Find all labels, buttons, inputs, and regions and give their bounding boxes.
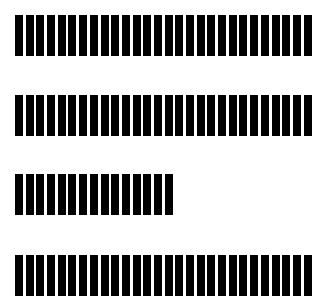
- stripe-bar: [186, 255, 194, 296]
- stripe-bar: [293, 255, 301, 296]
- stripe-bar: [58, 255, 66, 296]
- stripe-bar: [272, 255, 280, 296]
- stripe-bar: [15, 174, 23, 215]
- stripe-bar: [36, 174, 44, 215]
- stripe-bar: [304, 95, 312, 136]
- stripe-bar: [90, 95, 98, 136]
- stripe-bar: [154, 15, 162, 56]
- stripe-bar: [15, 255, 23, 296]
- stripe-bar: [36, 15, 44, 56]
- stripe-bar: [133, 174, 141, 215]
- stripe-bar: [36, 95, 44, 136]
- stripe-bar: [68, 15, 76, 56]
- stripe-bar: [175, 95, 183, 136]
- stripe-bar: [68, 95, 76, 136]
- stripe-bar: [239, 95, 247, 136]
- stripe-bar: [293, 95, 301, 136]
- stripe-row-4: [15, 255, 312, 296]
- stripe-bar: [197, 95, 205, 136]
- stripe-row-3: [15, 174, 173, 215]
- stripe-bar: [239, 15, 247, 56]
- stripe-bar: [229, 15, 237, 56]
- stripe-bar: [47, 15, 55, 56]
- stripe-bar: [175, 15, 183, 56]
- stripe-bar: [218, 15, 226, 56]
- stripe-bar: [68, 174, 76, 215]
- stripe-bar: [133, 15, 141, 56]
- stripe-bar: [122, 255, 130, 296]
- stripe-bar: [15, 15, 23, 56]
- stripe-bar: [261, 15, 269, 56]
- stripe-bar: [250, 15, 258, 56]
- stripe-bar: [239, 255, 247, 296]
- stripe-bar: [165, 174, 173, 215]
- stripe-bar: [293, 15, 301, 56]
- stripe-bar: [143, 174, 151, 215]
- stripe-bar: [111, 255, 119, 296]
- stripe-bar: [26, 174, 34, 215]
- stripe-bar: [154, 95, 162, 136]
- stripe-bar: [79, 15, 87, 56]
- stripe-bar: [261, 255, 269, 296]
- stripe-bar: [304, 255, 312, 296]
- stripe-bar: [261, 95, 269, 136]
- stripe-bar: [122, 174, 130, 215]
- stripe-bar: [58, 95, 66, 136]
- stripe-bar: [26, 255, 34, 296]
- stripe-bar: [26, 15, 34, 56]
- stripe-bar: [58, 174, 66, 215]
- stripe-bar: [79, 174, 87, 215]
- stripe-bar: [122, 95, 130, 136]
- stripe-bar: [143, 15, 151, 56]
- stripe-bar: [197, 15, 205, 56]
- stripe-bar: [218, 255, 226, 296]
- stripe-bar: [154, 255, 162, 296]
- stripe-row-2: [15, 95, 312, 136]
- stripe-bar: [186, 95, 194, 136]
- stripe-bar: [79, 255, 87, 296]
- stripe-bar: [15, 95, 23, 136]
- stripe-bar: [47, 95, 55, 136]
- stripe-bar: [272, 95, 280, 136]
- stripe-bar: [58, 15, 66, 56]
- stripe-bar: [90, 174, 98, 215]
- stripe-bar: [90, 255, 98, 296]
- stripe-bar: [207, 255, 215, 296]
- stripe-bar: [133, 95, 141, 136]
- stripe-bar: [111, 95, 119, 136]
- stripe-bar: [133, 255, 141, 296]
- stripe-bar: [143, 255, 151, 296]
- stripe-bar: [250, 95, 258, 136]
- stripe-bar: [26, 95, 34, 136]
- stripe-bar: [36, 255, 44, 296]
- stripe-bar: [229, 255, 237, 296]
- stripe-bar: [175, 255, 183, 296]
- stripe-bar: [154, 174, 162, 215]
- stripe-bar: [122, 15, 130, 56]
- stripe-bar: [229, 95, 237, 136]
- stripe-bar: [101, 174, 109, 215]
- stripe-bar: [143, 95, 151, 136]
- stripe-row-1: [15, 15, 312, 56]
- stripe-bar: [282, 15, 290, 56]
- stripe-bar: [111, 174, 119, 215]
- stripe-bar: [79, 95, 87, 136]
- stripe-bar: [304, 15, 312, 56]
- stripe-bar: [47, 174, 55, 215]
- stripe-bar: [101, 255, 109, 296]
- stripe-bar: [101, 95, 109, 136]
- stripe-bar: [111, 15, 119, 56]
- stripe-bar: [165, 95, 173, 136]
- stripe-bar: [47, 255, 55, 296]
- stripe-bar: [207, 15, 215, 56]
- stripe-bar: [282, 95, 290, 136]
- stripe-bar: [250, 255, 258, 296]
- stripe-bar: [197, 255, 205, 296]
- stripe-bar: [272, 15, 280, 56]
- stripe-bar: [186, 15, 194, 56]
- stripe-bar: [68, 255, 76, 296]
- stripe-bar: [90, 15, 98, 56]
- stripe-bar: [282, 255, 290, 296]
- stripe-bar: [101, 15, 109, 56]
- stripe-bar: [165, 255, 173, 296]
